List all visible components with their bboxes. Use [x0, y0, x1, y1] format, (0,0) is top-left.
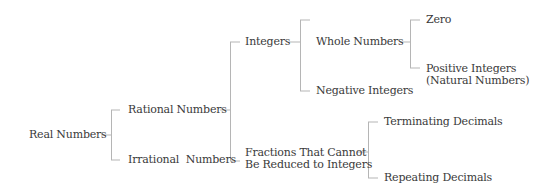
node-repeating-decimals: Repeating Decimals — [384, 172, 492, 184]
node-irrational-numbers: Irrational Numbers — [128, 154, 236, 166]
node-zero: Zero — [426, 14, 451, 26]
node-real-numbers: Real Numbers — [29, 129, 107, 141]
node-fractions-line2: Be Reduced to Integers — [245, 159, 372, 171]
node-terminating-decimals: Terminating Decimals — [384, 116, 503, 128]
node-negative-integers: Negative Integers — [316, 85, 413, 97]
node-positive-integers-line2: (Natural Numbers) — [426, 75, 529, 87]
node-rational-numbers: Rational Numbers — [128, 104, 227, 116]
node-integers: Integers — [245, 36, 290, 48]
node-whole-numbers: Whole Numbers — [316, 36, 404, 48]
